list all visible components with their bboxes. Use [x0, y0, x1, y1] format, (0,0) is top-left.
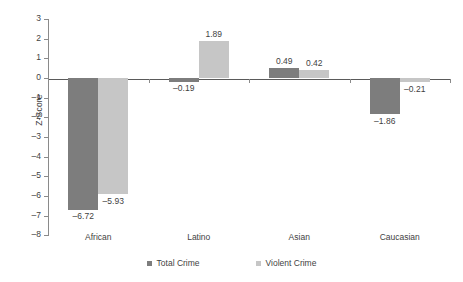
x-tick-mark	[249, 79, 250, 83]
legend-swatch-icon	[147, 261, 152, 266]
z-score-bar-chart: Z-Score 3210–1–2–3–4–5–6–7–8 –6.72–5.93–…	[0, 0, 463, 282]
bar-latino-violent-crime	[199, 41, 229, 78]
x-tick-mark	[350, 79, 351, 83]
bar-value-label: –0.21	[389, 84, 441, 94]
y-tick-mark: 2	[44, 39, 48, 40]
y-tick-mark: 1	[44, 58, 48, 59]
y-tick-mark: –3	[44, 137, 48, 138]
bar-african-violent-crime	[98, 78, 128, 195]
legend-swatch-icon	[256, 261, 261, 266]
bar-african-total-crime	[68, 78, 98, 210]
bar-value-label: 0.42	[288, 58, 340, 68]
x-tick-mark	[149, 79, 150, 83]
chart-legend: Total CrimeViolent Crime	[0, 258, 463, 268]
y-tick-mark: –1	[44, 98, 48, 99]
category-label-asian: Asian	[249, 232, 349, 242]
y-tick-label: 0	[36, 72, 41, 82]
x-tick-mark	[48, 79, 49, 83]
y-tick-label: 2	[36, 33, 41, 43]
plot-area: 3210–1–2–3–4–5–6–7–8 –6.72–5.93–0.191.89…	[48, 14, 450, 238]
category-label-caucasian: Caucasian	[350, 232, 450, 242]
y-tick-label: –1	[32, 92, 41, 102]
y-tick-label: 1	[36, 52, 41, 62]
y-tick-mark: –4	[44, 157, 48, 158]
x-tick-mark	[450, 79, 451, 83]
bar-value-label: –0.19	[158, 83, 210, 93]
y-tick-label: 3	[36, 13, 41, 23]
y-tick-mark: –7	[44, 216, 48, 217]
y-tick-label: –8	[32, 229, 41, 239]
y-tick-label: –7	[32, 210, 41, 220]
bar-value-label: 1.89	[188, 29, 240, 39]
y-tick-label: –4	[32, 151, 41, 161]
y-tick-label: –3	[32, 131, 41, 141]
y-tick-mark: –5	[44, 176, 48, 177]
y-tick-label: –5	[32, 170, 41, 180]
legend-label: Total Crime	[157, 258, 200, 268]
category-label-african: African	[48, 232, 148, 242]
bar-value-label: –6.72	[57, 211, 109, 221]
y-tick-label: –2	[32, 111, 41, 121]
bar-value-label: –1.86	[359, 116, 411, 126]
bar-asian-total-crime	[269, 68, 299, 78]
y-tick-mark: –6	[44, 196, 48, 197]
bar-asian-violent-crime	[299, 70, 329, 78]
legend-label: Violent Crime	[266, 258, 317, 268]
bar-value-label: –5.93	[87, 196, 139, 206]
legend-item-total[interactable]: Total Crime	[147, 258, 200, 268]
y-axis-spine	[48, 19, 49, 236]
bar-caucasian-violent-crime	[400, 78, 430, 82]
y-tick-mark: 3	[44, 19, 48, 20]
category-label-latino: Latino	[149, 232, 249, 242]
y-tick-label: –6	[32, 190, 41, 200]
legend-item-violent[interactable]: Violent Crime	[256, 258, 317, 268]
y-tick-mark: –2	[44, 117, 48, 118]
bar-latino-total-crime	[169, 78, 199, 82]
